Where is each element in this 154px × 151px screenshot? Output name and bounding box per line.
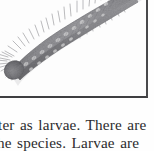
caterpillar-illustration xyxy=(0,0,148,98)
body-text-block: ter as larvae. There are he species. Lar… xyxy=(0,104,154,151)
scanned-page: ter as larvae. There are he species. Lar… xyxy=(0,0,154,151)
text-line-1: ter as larvae. There are xyxy=(0,116,146,134)
figure-plate xyxy=(0,0,146,96)
text-line-2: he species. Larvae are xyxy=(0,134,139,151)
scan-halo xyxy=(10,0,142,86)
figure-frame xyxy=(0,0,148,98)
